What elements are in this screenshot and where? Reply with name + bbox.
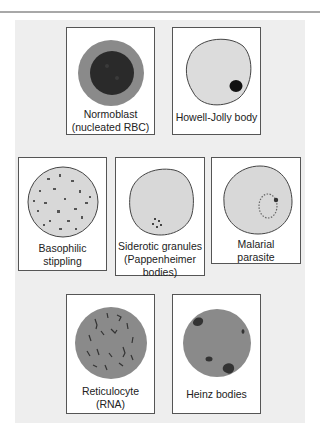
label-malarial: Malarial <box>212 238 300 251</box>
label-malarial-sub: parasite <box>212 251 300 264</box>
card-normoblast: Normoblast (nucleated RBC) <box>66 27 155 135</box>
label-siderotic-sub2: bodies) <box>116 266 204 279</box>
top-rule <box>0 11 320 13</box>
card-heinz-bodies: Heinz bodies <box>172 294 261 414</box>
label-howell-jolly: Howell-Jolly body <box>173 111 260 124</box>
card-howell-jolly: Howell-Jolly body <box>172 27 261 135</box>
card-siderotic-granules: Siderotic granules (Pappenheimer bodies) <box>115 157 205 276</box>
label-siderotic: Siderotic granules <box>116 240 204 253</box>
label-basophilic: Basophilic <box>19 242 106 255</box>
label-siderotic-sub: (Pappenheimer <box>116 253 204 266</box>
label-normoblast: Normoblast <box>67 108 154 121</box>
label-reticulocyte: Reticulocyte <box>67 385 154 398</box>
card-reticulocyte: Reticulocyte (RNA) <box>66 294 155 414</box>
label-heinz: Heinz bodies <box>173 388 260 401</box>
label-normoblast-sub: (nucleated RBC) <box>67 121 154 134</box>
card-malarial-parasite: Malarial parasite <box>211 157 301 264</box>
card-basophilic-stippling: Basophilic stippling <box>18 157 107 271</box>
label-basophilic-sub: stippling <box>19 255 106 268</box>
label-reticulocyte-sub: (RNA) <box>67 398 154 411</box>
